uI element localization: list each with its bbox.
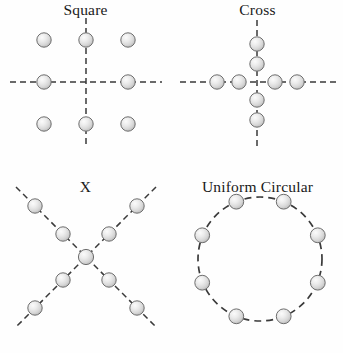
sphere [130,301,144,315]
sphere [310,228,325,243]
sphere [250,37,264,51]
sphere [102,227,116,241]
sphere [37,117,51,131]
sphere [56,227,70,241]
sphere [79,117,93,131]
sphere [37,75,51,89]
sphere [37,33,51,47]
sphere [195,275,210,290]
sphere-group-circular [195,194,325,323]
sphere [268,75,282,89]
sphere [121,33,135,47]
panel-square: Square [0,0,171,176]
guide-circle [198,197,322,321]
diagram-cross [172,0,343,176]
sphere [250,113,264,127]
panel-x: X [0,177,171,353]
sphere [250,93,264,107]
guide-circle-group [198,197,322,321]
diagram-square [0,0,171,176]
sphere [102,273,116,287]
sphere-arrangement-figure: Square [0,0,343,353]
diagram-x [0,177,171,353]
sphere [56,273,70,287]
sphere [229,309,244,324]
sphere [79,33,93,47]
panel-circular: Uniform Circular [172,177,343,353]
sphere [121,117,135,131]
sphere-center [78,249,93,264]
sphere [28,199,42,213]
diagram-circular [172,177,343,353]
sphere [195,228,210,243]
sphere [232,75,246,89]
sphere [290,75,304,89]
sphere [276,309,291,324]
sphere [229,194,244,209]
sphere [210,75,224,89]
sphere [310,275,325,290]
sphere [28,301,42,315]
sphere [121,75,135,89]
panel-cross: Cross [172,0,343,176]
sphere [250,57,264,71]
sphere [276,194,291,209]
sphere [130,199,144,213]
